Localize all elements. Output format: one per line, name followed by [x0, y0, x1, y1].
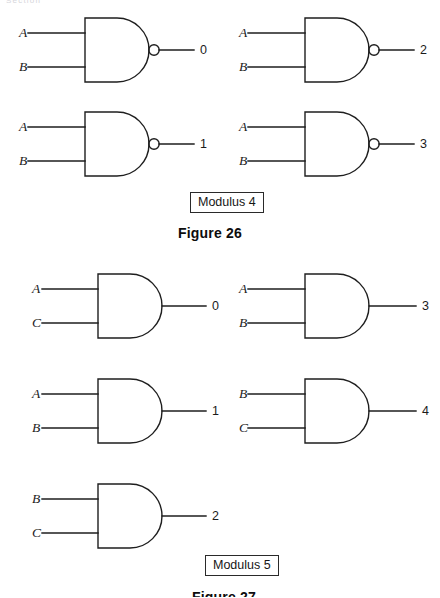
gate-body — [98, 274, 162, 338]
nand-gate: A B 2 — [240, 12, 440, 102]
gate-body — [305, 112, 369, 176]
running-head: Section — [6, 0, 41, 5]
input-label: C — [239, 420, 248, 436]
output-label: 4 — [422, 404, 429, 418]
input-label: B — [239, 153, 247, 169]
gate-body — [85, 112, 149, 176]
input-label: A — [32, 281, 40, 297]
figure-caption: Figure 27 — [192, 589, 256, 597]
and-gate: B C 2 — [20, 478, 220, 568]
output-label: 3 — [420, 137, 427, 151]
and-gate: B C 4 — [240, 373, 440, 463]
output-label: 1 — [200, 137, 207, 151]
input-label: A — [19, 25, 27, 41]
modulus-label-box: Modulus 4 — [190, 192, 264, 213]
output-label: 1 — [212, 404, 219, 418]
output-label: 3 — [422, 299, 429, 313]
and-gate: A C 0 — [20, 268, 220, 358]
input-label: A — [239, 281, 247, 297]
output-label: 2 — [420, 43, 427, 57]
input-label: B — [239, 59, 247, 75]
gate-body — [98, 484, 162, 548]
invert-bubble — [149, 45, 159, 55]
input-label: A — [19, 119, 27, 135]
gate-body — [85, 18, 149, 82]
input-label: A — [239, 119, 247, 135]
gate-body — [305, 18, 369, 82]
nand-gate: A B 1 — [20, 106, 220, 196]
input-label: C — [32, 525, 41, 541]
gate-body — [98, 379, 162, 443]
invert-bubble — [369, 139, 379, 149]
output-label: 0 — [212, 299, 219, 313]
and-gate: A B 1 — [20, 373, 220, 463]
figure-page: Section A B 0 A B — [0, 0, 440, 598]
input-label: B — [19, 59, 27, 75]
and-gate: A B 3 — [240, 268, 440, 358]
input-label: B — [239, 315, 247, 331]
input-label: B — [32, 491, 40, 507]
output-label: 2 — [212, 509, 219, 523]
input-label: B — [239, 386, 247, 402]
figure-caption: Figure 26 — [178, 225, 242, 241]
input-label: C — [32, 315, 41, 331]
nand-gate: A B 0 — [20, 12, 220, 102]
invert-bubble — [369, 45, 379, 55]
gate-body — [305, 379, 369, 443]
modulus-label-box: Modulus 5 — [205, 555, 279, 576]
input-label: B — [19, 153, 27, 169]
input-label: A — [239, 25, 247, 41]
invert-bubble — [149, 139, 159, 149]
input-label: A — [32, 386, 40, 402]
output-label: 0 — [200, 43, 207, 57]
nand-gate: A B 3 — [240, 106, 440, 196]
gate-body — [305, 274, 369, 338]
input-label: B — [32, 420, 40, 436]
